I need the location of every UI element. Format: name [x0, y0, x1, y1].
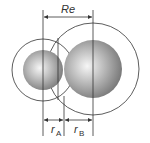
- bond-length-diagram: Re r A r B: [0, 0, 150, 143]
- ra-subscript: A: [56, 129, 62, 138]
- re-label: Re: [61, 3, 75, 15]
- rb-subscript: B: [79, 129, 84, 138]
